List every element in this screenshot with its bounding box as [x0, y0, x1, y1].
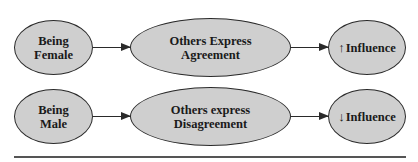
node-others-express-agreement: Others Express Agreement [130, 18, 291, 77]
arrow-down-icon: ↓ [338, 109, 345, 124]
node-label: Others Express Agreement [169, 34, 251, 62]
arrow-agreement-to-influence [291, 47, 328, 48]
node-being-female: Being Female [14, 20, 93, 75]
arrow-disagreement-to-influence [291, 116, 328, 117]
node-label: Others express Disagreement [171, 103, 250, 131]
node-influence-down: ↓Influence [328, 89, 406, 144]
bottom-rule-divider [14, 156, 406, 158]
diagram-canvas: Being Female Others Express Agreement ↑I… [0, 0, 418, 162]
node-label: ↓Influence [338, 110, 396, 124]
arrow-up-icon: ↑ [338, 40, 345, 55]
node-others-express-disagreement: Others express Disagreement [130, 87, 291, 146]
node-label: ↑Influence [338, 41, 396, 55]
node-influence-up: ↑Influence [328, 20, 406, 75]
node-being-male: Being Male [14, 89, 93, 144]
arrow-male-to-disagreement [93, 116, 130, 117]
arrow-female-to-agreement [93, 47, 130, 48]
node-label: Being Female [34, 34, 73, 62]
node-label: Being Male [38, 103, 69, 131]
